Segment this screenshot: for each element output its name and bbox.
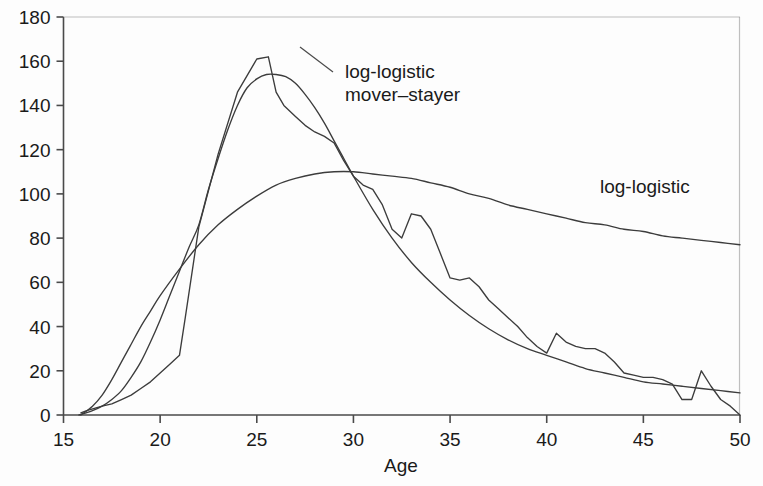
y-tick-label: 160 bbox=[19, 51, 51, 72]
y-tick-label: 120 bbox=[19, 140, 51, 161]
x-tick-label: 40 bbox=[536, 429, 557, 450]
x-tick-label: 50 bbox=[729, 429, 750, 450]
y-tick-label: 100 bbox=[19, 184, 51, 205]
series-line-log-logistic bbox=[81, 172, 740, 415]
y-axis-ticks: 020406080100120140160180 bbox=[19, 7, 64, 426]
annotation-log-logistic: log-logistic bbox=[600, 176, 690, 197]
chart-plot-area: 020406080100120140160180 152025303540455… bbox=[0, 0, 763, 486]
x-axis-title: Age bbox=[384, 455, 418, 476]
y-tick-label: 140 bbox=[19, 95, 51, 116]
chart-figure: 020406080100120140160180 152025303540455… bbox=[0, 0, 763, 486]
x-tick-label: 15 bbox=[53, 429, 74, 450]
y-tick-label: 20 bbox=[29, 361, 50, 382]
x-axis-ticks: 1520253035404550 bbox=[53, 415, 751, 450]
series-line-empirical bbox=[81, 57, 740, 415]
x-tick-label: 45 bbox=[633, 429, 654, 450]
y-tick-label: 60 bbox=[29, 272, 50, 293]
x-tick-label: 30 bbox=[343, 429, 364, 450]
x-tick-label: 20 bbox=[150, 429, 171, 450]
y-tick-label: 180 bbox=[19, 7, 51, 28]
chart-series-group bbox=[79, 57, 740, 415]
series-line-log-logistic-mover-stayer bbox=[79, 74, 740, 415]
annotation-mover-stayer-line1: log-logistic bbox=[345, 61, 435, 82]
annotation-leader-mover-stayer bbox=[300, 47, 333, 72]
x-tick-label: 35 bbox=[440, 429, 461, 450]
x-tick-label: 25 bbox=[246, 429, 267, 450]
y-tick-label: 40 bbox=[29, 317, 50, 338]
annotation-mover-stayer-line2: mover–stayer bbox=[345, 84, 461, 105]
y-tick-label: 80 bbox=[29, 228, 50, 249]
y-tick-label: 0 bbox=[40, 405, 51, 426]
